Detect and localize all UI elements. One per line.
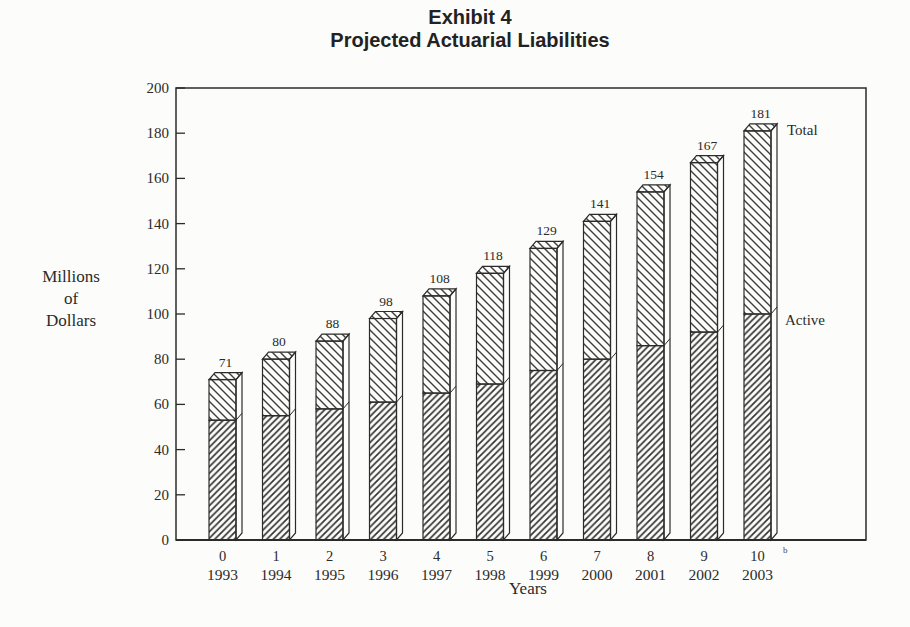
bar-side-face: [557, 241, 563, 540]
bar-active-segment: [530, 371, 557, 541]
bar-active-segment: [209, 420, 236, 540]
bar-active-segment: [691, 332, 718, 540]
x-tick-label-year-index: 3: [379, 548, 386, 564]
x-tick-label-year-index: 0: [219, 548, 226, 564]
bar-total-segment: [316, 341, 343, 409]
y-tick-label: 200: [147, 80, 170, 96]
bar-top-face: [316, 334, 349, 341]
bar-value-label: 141: [590, 196, 610, 211]
x-tick-label-calendar-year: 1997: [421, 566, 452, 583]
bar-side-face: [718, 156, 724, 540]
bar-side-face: [611, 214, 617, 540]
bar-top-face: [477, 266, 510, 273]
x-tick-label-year-index: 6: [540, 548, 547, 564]
x-tick-label-calendar-year: 1996: [368, 566, 399, 583]
bar-total-segment: [691, 163, 718, 333]
bar-value-label: 108: [429, 271, 450, 286]
bar-total-segment: [370, 319, 397, 403]
x-tick-label-year-index: 10: [750, 548, 765, 564]
bar-total-segment: [423, 296, 450, 393]
bar-total-segment: [744, 131, 771, 314]
bar-side-face: [397, 312, 403, 540]
bar-value-label: 98: [379, 294, 393, 309]
y-tick-label: 0: [162, 532, 170, 548]
bar-side-face: [771, 124, 777, 540]
bar-active-segment: [423, 393, 450, 540]
footnote-marker: b: [783, 545, 788, 555]
bar-value-label: 167: [697, 138, 718, 153]
bar-top-face: [209, 373, 242, 380]
bar-value-label: 129: [536, 223, 557, 238]
x-tick-label-calendar-year: 1995: [314, 566, 345, 583]
bar-total-segment: [263, 359, 290, 416]
bar-value-label: 118: [483, 248, 503, 263]
x-tick-label-calendar-year: 2003: [742, 566, 773, 583]
bar-top-face: [637, 185, 670, 192]
bar-side-face: [664, 185, 670, 540]
x-tick-label-calendar-year: 1998: [475, 566, 506, 583]
bar-value-label: 181: [750, 106, 770, 121]
y-tick-label: 100: [147, 306, 170, 322]
bar-active-segment: [316, 409, 343, 540]
bar-top-face: [584, 214, 617, 221]
bar-value-label: 80: [272, 334, 286, 349]
y-tick-label: 20: [154, 487, 169, 503]
bar-value-label: 88: [326, 316, 340, 331]
bar-active-segment: [637, 346, 664, 540]
total-annotation-label: Total: [787, 122, 818, 139]
bar-active-segment: [744, 314, 771, 540]
x-tick-label-year-index: 4: [433, 548, 441, 564]
bar-side-face: [450, 289, 456, 540]
bar-side-face: [343, 334, 349, 540]
x-tick-label-year-index: 2: [326, 548, 333, 564]
x-tick-label-year-index: 8: [647, 548, 654, 564]
bar-total-segment: [209, 380, 236, 421]
x-tick-label-calendar-year: 2000: [582, 566, 613, 583]
y-tick-label: 60: [154, 396, 169, 412]
x-tick-label-calendar-year: 2001: [635, 566, 666, 583]
x-axis-title: Years: [509, 579, 547, 599]
y-tick-label: 180: [147, 125, 170, 141]
bar-value-label: 71: [219, 355, 233, 370]
x-tick-label-year-index: 9: [700, 548, 707, 564]
y-tick-label: 160: [147, 170, 170, 186]
x-tick-label-calendar-year: 1993: [207, 566, 238, 583]
y-tick-label: 120: [147, 261, 170, 277]
bar-top-face: [530, 241, 563, 248]
bar-side-face: [236, 373, 242, 540]
bar-total-segment: [584, 221, 611, 359]
x-tick-label-calendar-year: 2002: [689, 566, 720, 583]
y-tick-label: 140: [147, 216, 170, 232]
x-tick-label-calendar-year: 1994: [261, 566, 292, 583]
bar-side-face: [290, 352, 296, 540]
y-tick-label: 80: [154, 351, 169, 367]
bar-active-segment: [263, 416, 290, 540]
bar-value-label: 154: [643, 167, 664, 182]
bar-total-segment: [477, 273, 504, 384]
bar-active-segment: [370, 402, 397, 540]
bar-top-face: [744, 124, 777, 131]
bar-top-face: [263, 352, 296, 359]
bar-total-segment: [530, 248, 557, 370]
bar-chart-plot: 0204060801001201401601802007101993801199…: [0, 0, 910, 627]
bar-total-segment: [637, 192, 664, 346]
bar-active-segment: [584, 359, 611, 540]
bar-side-face: [504, 266, 510, 540]
active-annotation-label: Active: [785, 312, 825, 329]
x-tick-label-year-index: 5: [486, 548, 493, 564]
scanned-chart-page: Exhibit 4 Projected Actuarial Liabilitie…: [0, 0, 910, 627]
bar-top-face: [691, 156, 724, 163]
y-tick-label: 40: [154, 442, 169, 458]
x-tick-label-year-index: 7: [593, 548, 600, 564]
x-tick-label-year-index: 1: [272, 548, 279, 564]
bar-active-segment: [477, 384, 504, 540]
bar-top-face: [370, 312, 403, 319]
bar-top-face: [423, 289, 456, 296]
